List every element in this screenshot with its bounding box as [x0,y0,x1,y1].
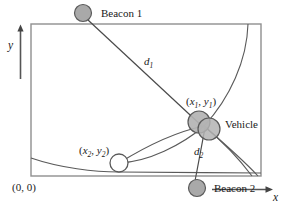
beacon-2-marker[interactable] [189,180,206,197]
beacon-2-label: Beacon 2 [214,183,255,194]
workspace-boundary [31,24,261,176]
diagram-canvas [0,0,283,205]
distance-line-d1 [88,20,203,127]
lens-arc-upper [119,126,204,163]
unknown-point-marker[interactable] [110,154,128,172]
y-axis-arrowhead [17,25,23,32]
localization-diagram: Beacon 1 Beacon 2 Vehicle (x1, y1) (x2, … [0,0,283,205]
x-axis-label: x [273,192,278,204]
beacon-1-marker[interactable] [75,5,92,22]
vehicle-marker-b[interactable] [198,118,220,140]
y-axis-label: y [8,40,13,52]
distance-d1-label: d1 [144,56,153,70]
origin-label: (0, 0) [12,182,36,193]
lens-arc-lower [119,126,204,163]
baseline-curve [31,158,261,173]
vehicle-coordinates-label: (x1, y1) [186,96,216,110]
beacon-1-label: Beacon 1 [101,8,142,19]
x-axis-arrowhead [266,186,274,193]
distance-d2-label: d2 [194,146,203,160]
unknown-point-coordinates-label: (x2, y2) [79,145,109,159]
vehicle-label: Vehicle [225,119,258,130]
